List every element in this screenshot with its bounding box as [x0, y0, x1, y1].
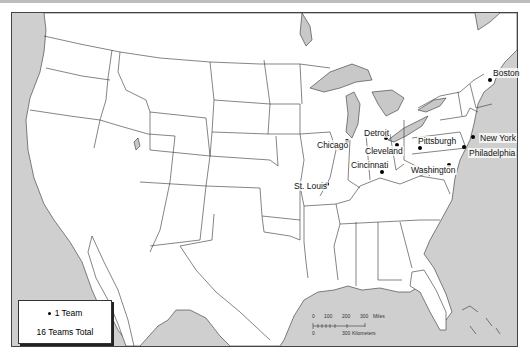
scale-km-0: 0 — [312, 330, 315, 336]
scale-km-300: 300 — [342, 330, 350, 336]
city-label: Pittsburgh — [417, 136, 457, 146]
team-dot-icon — [418, 146, 422, 150]
team-dot-icon — [380, 170, 384, 174]
scale-mile-200: 200 — [342, 313, 350, 319]
scale-miles-unit: Miles — [373, 313, 385, 319]
scale-km-unit: Kilometers — [352, 330, 376, 336]
city-label: Cincinnati — [350, 160, 389, 170]
city-label: New York — [479, 133, 517, 143]
legend: 1 Team 16 Teams Total — [18, 300, 112, 344]
land-mass — [26, 13, 517, 346]
city-label: Boston — [492, 68, 520, 78]
city-label: Philadelphia — [468, 148, 516, 158]
team-dot-icon — [48, 312, 51, 315]
city-label: Chicago — [316, 140, 349, 150]
city-label: St. Louis — [293, 181, 328, 191]
team-dot-icon — [488, 78, 492, 82]
city-label: Detroit — [363, 128, 390, 138]
scale-bar-lines — [313, 323, 365, 329]
team-dot-icon — [462, 145, 466, 149]
scale-mile-100: 100 — [324, 313, 332, 319]
city-label: Washington — [410, 165, 457, 175]
city-label: Cleveland — [364, 146, 404, 156]
bahamas — [462, 306, 500, 334]
legend-symbol-row: 1 Team — [19, 308, 111, 318]
legend-symbol-label: 1 Team — [55, 308, 83, 318]
legend-total: 16 Teams Total — [19, 327, 111, 337]
scale-mile-0: 0 — [312, 313, 315, 319]
scale-mile-300: 300 — [360, 313, 368, 319]
florida — [410, 270, 446, 330]
team-dot-icon — [471, 135, 475, 139]
